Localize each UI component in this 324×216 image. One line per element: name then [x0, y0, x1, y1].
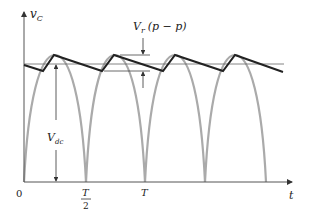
vdc-label: Vdc — [47, 131, 63, 146]
capacitor-voltage-ripple — [24, 55, 283, 72]
x-axis-label: t — [289, 189, 294, 202]
diagram-canvas: vC t 0 T 2 T Vr(p − p) Vdc — [0, 0, 324, 216]
origin-label: 0 — [16, 188, 22, 199]
rectifier-ripple-diagram: vC t 0 T 2 T Vr(p − p) Vdc — [0, 0, 324, 216]
tick-half-period-den: 2 — [83, 201, 89, 211]
tick-half-period-num: T — [82, 187, 90, 198]
y-axis-label: vC — [30, 7, 43, 23]
ripple-label: Vr(p − p) — [133, 20, 187, 35]
tick-full-period: T — [141, 187, 149, 198]
rectified-waveform — [24, 55, 266, 182]
